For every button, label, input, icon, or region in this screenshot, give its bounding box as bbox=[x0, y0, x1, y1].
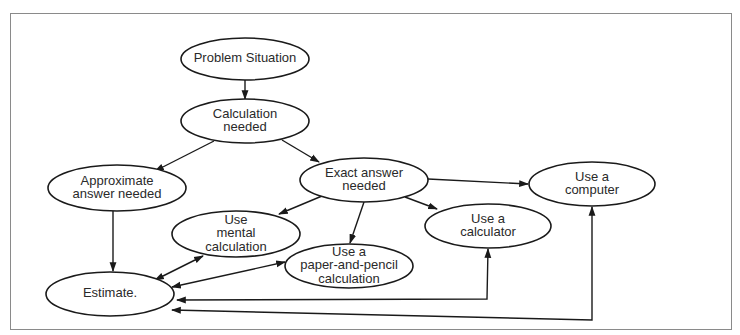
node-estimate: Estimate. bbox=[46, 272, 174, 316]
flowchart: Problem SituationCalculationneededApprox… bbox=[0, 0, 740, 335]
node-label: calculator bbox=[460, 224, 516, 239]
arrow-exact-to-mental bbox=[279, 196, 322, 214]
node-calc-needed: Calculationneeded bbox=[181, 99, 309, 143]
arrow-mental-to-estimate bbox=[155, 256, 203, 280]
node-label: Estimate. bbox=[83, 285, 137, 300]
node-approx: Approximateanswer needed bbox=[48, 165, 186, 211]
node-computer: Use acomputer bbox=[529, 162, 655, 206]
arrow-paper-to-estimate bbox=[172, 262, 285, 287]
node-exact: Exact answerneeded bbox=[300, 158, 428, 202]
arrow-calc_needed-to-approx bbox=[155, 141, 214, 171]
node-paper: Use apaper-and-pencilcalculation bbox=[285, 244, 413, 288]
arrow-exact-to-paper bbox=[350, 202, 364, 243]
arrow-exact-to-calculator bbox=[405, 197, 437, 209]
node-label: Problem Situation bbox=[194, 50, 297, 65]
node-mental: Usementalcalculation bbox=[172, 211, 300, 257]
node-problem: Problem Situation bbox=[181, 38, 309, 80]
node-calculator: Use acalculator bbox=[425, 204, 551, 248]
node-label: calculation bbox=[205, 239, 266, 254]
node-label: answer needed bbox=[73, 186, 162, 201]
arrow-calc_needed-to-exact bbox=[282, 140, 319, 162]
arrow-exact-to-computer bbox=[428, 179, 528, 184]
node-label: needed bbox=[342, 178, 385, 193]
nodes: Problem SituationCalculationneededApprox… bbox=[46, 38, 655, 316]
node-label: needed bbox=[223, 119, 266, 134]
node-label: calculation bbox=[318, 271, 379, 286]
node-label: computer bbox=[565, 182, 620, 197]
